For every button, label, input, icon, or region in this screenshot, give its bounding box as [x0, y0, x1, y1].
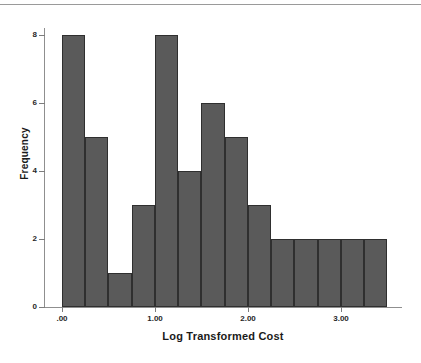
histogram-bar	[62, 35, 85, 307]
y-tick-label: 8	[7, 31, 37, 39]
histogram-bar	[294, 239, 317, 307]
histogram-bar	[201, 103, 224, 307]
x-axis-title: Log Transformed Cost	[44, 330, 402, 342]
x-tick-label: 2.00	[228, 314, 268, 323]
histogram-bar	[341, 239, 364, 307]
y-axis-title: Frequency	[19, 84, 30, 224]
x-tick-mark	[62, 307, 63, 312]
y-tick-mark	[39, 307, 45, 308]
histogram-bar	[248, 205, 271, 307]
x-tick-label: .00	[42, 314, 82, 323]
histogram-bar	[318, 239, 341, 307]
histogram-bar	[132, 205, 155, 307]
x-tick-label: 1.00	[135, 314, 175, 323]
y-tick-label: 0	[7, 303, 37, 311]
histogram-bar	[364, 239, 387, 307]
y-tick-mark	[39, 35, 45, 36]
histogram-bar	[178, 171, 201, 307]
y-axis-line	[44, 28, 45, 308]
y-tick-mark	[39, 103, 45, 104]
histogram-bar	[108, 273, 131, 307]
histogram-bar	[85, 137, 108, 307]
x-tick-mark	[248, 307, 249, 312]
x-axis-line	[44, 307, 402, 308]
y-tick-label: 2	[7, 235, 37, 243]
x-tick-mark	[155, 307, 156, 312]
histogram-bar	[271, 239, 294, 307]
y-tick-mark	[39, 239, 45, 240]
histogram-bar	[155, 35, 178, 307]
x-tick-mark	[341, 307, 342, 312]
y-tick-mark	[39, 171, 45, 172]
histogram-bar	[225, 137, 248, 307]
histogram-figure: 0 2 4 6 8 .00 1.00 2.00 3.00 Frequency L…	[0, 0, 421, 363]
plot-area: 0 2 4 6 8 .00 1.00 2.00 3.00 Frequency L…	[0, 0, 421, 363]
x-tick-label: 3.00	[321, 314, 361, 323]
